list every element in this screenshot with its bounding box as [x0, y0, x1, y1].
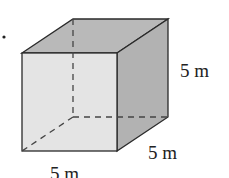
front-face: [22, 53, 117, 151]
cube-diagram: 5 m 5 m 5 m: [0, 0, 229, 178]
width-label: 5 m: [50, 163, 79, 178]
height-label: 5 m: [180, 60, 209, 81]
bullet-dot: [2, 35, 5, 38]
depth-label: 5 m: [148, 142, 177, 163]
